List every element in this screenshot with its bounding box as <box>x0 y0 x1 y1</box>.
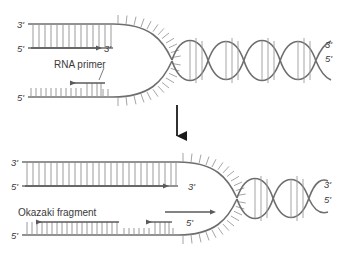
diagram-canvas: 3' 5' 3' 5' 3' 5' RNA primer <box>0 0 345 272</box>
label-bottom-leading-3prime: 3' <box>188 181 196 192</box>
top-double-helix <box>172 38 331 83</box>
label-bottom-lagging-5prime: 5' <box>11 230 19 241</box>
bottom-double-helix <box>237 176 328 221</box>
label-top-helix-5prime: 5' <box>325 53 333 64</box>
label-bottom-helix-3prime: 3' <box>324 179 332 190</box>
top-fork-rungs <box>118 15 181 106</box>
panel-bottom: 3' 5' 3' 5' 5' 3' 5' Okazaki fragment <box>11 153 332 244</box>
bottom-leading-duplex <box>22 162 178 186</box>
top-leading-duplex <box>28 24 113 48</box>
label-bottom-left-3prime: 3' <box>11 157 19 168</box>
label-rna-primer: RNA primer <box>54 59 106 70</box>
bottom-rna-primer <box>155 222 169 235</box>
top-lagging-strand <box>28 68 113 97</box>
okazaki-fragment-rungs <box>27 222 117 235</box>
label-top-helix-3prime: 3' <box>325 39 333 50</box>
dna-replication-diagram: 3' 5' 3' 5' 3' 5' RNA primer <box>0 0 345 272</box>
bottom-lagging-strand <box>22 222 178 235</box>
top-fork-curve <box>113 15 181 106</box>
label-top-left-5prime: 5' <box>17 43 25 54</box>
bottom-fork-rungs <box>183 153 246 244</box>
label-top-leading-3prime: 3' <box>104 43 112 54</box>
panel-top: 3' 5' 3' 5' 3' 5' RNA primer <box>17 15 333 106</box>
label-top-left-3prime: 3' <box>17 19 25 30</box>
label-okazaki-fragment: Okazaki fragment <box>18 207 97 218</box>
top-rna-primer <box>87 83 101 97</box>
label-bottom-left-5prime: 5' <box>11 181 19 192</box>
label-top-lagging-5prime: 5' <box>17 92 25 103</box>
label-bottom-primer-5prime: 5' <box>186 217 194 228</box>
label-bottom-helix-5prime: 5' <box>324 194 332 205</box>
bottom-fork-curve <box>178 153 246 244</box>
